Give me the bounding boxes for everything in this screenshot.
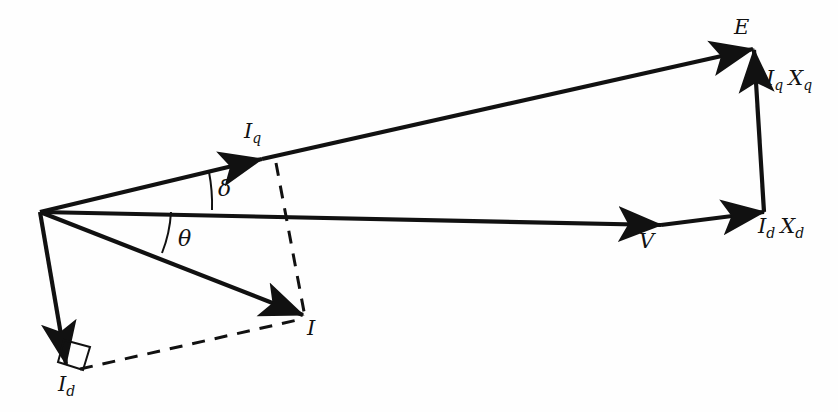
label-Id-subscript: d: [66, 383, 75, 399]
construction-line-current-projection-to-q-axis: [276, 163, 305, 317]
label-IdXd-sub2: d: [795, 225, 804, 241]
label-IqXq-sub1: q: [774, 77, 783, 93]
label-IdXd: IdXd: [758, 216, 804, 237]
angle-arc-delta-load-angle: [209, 172, 212, 210]
vector-d-axis-reactance-drop: [661, 212, 764, 225]
label-Id: Id: [58, 374, 75, 395]
label-delta-angle: δ: [218, 178, 231, 200]
label-IqXq-sub2: q: [803, 77, 812, 93]
label-IqXq-symbol2: X: [788, 66, 803, 90]
vector-armature-current: [40, 212, 303, 315]
phasor-diagram-figure: E Iq V I Id IqXq IdXd δ θ: [0, 0, 838, 412]
construction-line-current-projection-to-d-axis: [80, 319, 302, 369]
angle-arc-theta-power-factor-angle: [162, 212, 171, 253]
label-V: V: [639, 231, 654, 252]
phasor-diagram-canvas: [0, 0, 838, 412]
label-I: I: [307, 318, 315, 339]
vector-d-axis-current: [40, 212, 66, 364]
vector-q-axis-reactance-drop: [754, 50, 764, 212]
vector-q-axis-extension-to-E: [262, 49, 753, 159]
label-Iq-subscript: q: [252, 130, 261, 146]
label-E: E: [734, 17, 749, 38]
label-IqXq: IqXq: [766, 68, 812, 89]
vector-terminal-voltage: [40, 212, 661, 225]
label-theta-angle: θ: [178, 228, 191, 250]
label-IdXd-sub1: d: [766, 225, 775, 241]
label-Iq: Iq: [244, 121, 261, 142]
label-IdXd-symbol2: X: [780, 214, 795, 238]
